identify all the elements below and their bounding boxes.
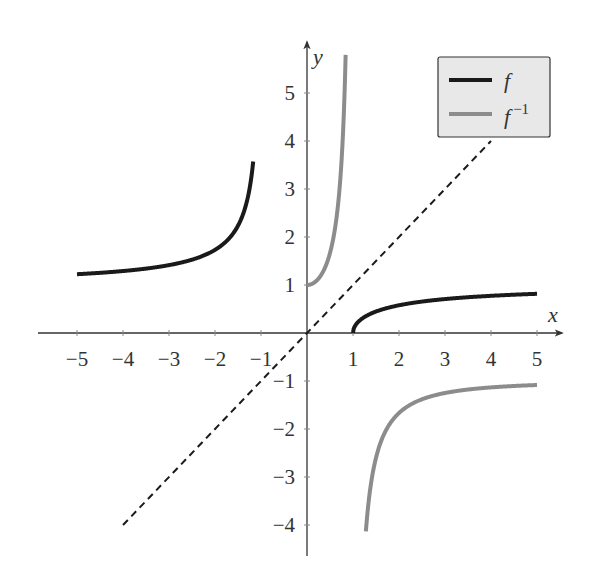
y-tick-label: −1 bbox=[273, 369, 295, 393]
x-tick-label: 3 bbox=[440, 347, 451, 371]
x-tick-label: 2 bbox=[394, 347, 405, 371]
y-tick-label: −4 bbox=[273, 513, 296, 537]
y-ticks: −4−3−2−112345 bbox=[273, 81, 310, 537]
chart: −5−4−3−2−112345 −4−3−2−112345 x y f f−1 bbox=[0, 0, 601, 580]
y-tick-label: 5 bbox=[285, 81, 296, 105]
legend: f f−1 bbox=[438, 57, 550, 137]
y-tick-label: −3 bbox=[273, 465, 295, 489]
y-tick-label: 4 bbox=[285, 129, 296, 153]
x-axis-label: x bbox=[547, 302, 558, 327]
curve-f-branch-1 bbox=[77, 162, 253, 275]
x-tick-label: 1 bbox=[348, 347, 359, 371]
curve-f-inverse-branch-1 bbox=[307, 55, 346, 285]
x-tick-label: −3 bbox=[158, 347, 180, 371]
x-tick-label: −1 bbox=[250, 347, 272, 371]
x-tick-label: 4 bbox=[486, 347, 497, 371]
x-tick-label: 5 bbox=[532, 347, 543, 371]
y-tick-label: 3 bbox=[285, 177, 296, 201]
x-tick-label: −4 bbox=[112, 347, 135, 371]
x-tick-label: −5 bbox=[66, 347, 88, 371]
x-tick-label: −2 bbox=[204, 347, 226, 371]
curve-f-branch-2 bbox=[353, 294, 537, 333]
legend-box bbox=[438, 57, 550, 137]
y-tick-label: −2 bbox=[273, 417, 295, 441]
legend-label-f-inverse-sup: −1 bbox=[513, 101, 529, 117]
y-axis-label: y bbox=[311, 44, 323, 69]
y-tick-label: 1 bbox=[285, 273, 296, 297]
y-tick-label: 2 bbox=[285, 225, 296, 249]
x-ticks: −5−4−3−2−112345 bbox=[66, 330, 542, 371]
curve-f-inverse-branch-2 bbox=[366, 385, 537, 531]
